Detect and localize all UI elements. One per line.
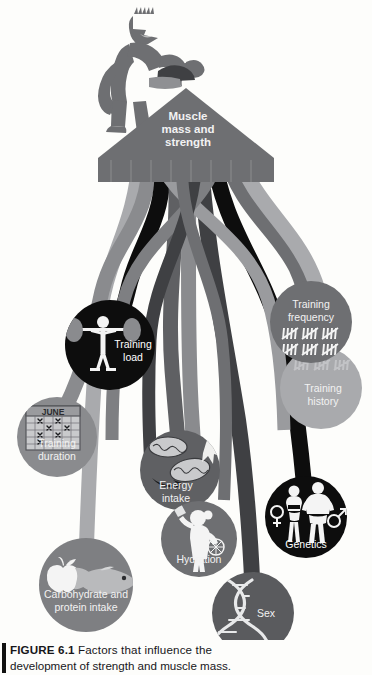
factor-label-genetics: Sex [257,607,276,619]
factor-label-carbohydrate-line2: protein intake [54,601,117,613]
factor-label-training-load-line1: Training [114,338,152,350]
factor-label-energy-intake-line1: Energy [159,479,193,491]
factor-label-training-frequency-line2: frequency [288,311,335,323]
arrow-label-line3: strength [165,136,211,148]
caption-line-1: Factors that influence the [78,643,212,656]
factor-label-training-load-line2: load [123,351,143,363]
figure-caption: FIGURE 6.1 Factors that influence the de… [0,642,372,673]
factor-label-energy-intake-line2: intake [162,492,190,504]
factor-label-training-duration-line2: duration [38,450,76,462]
factor-label-training-frequency-line1: Training [292,298,330,310]
factor-label-carbohydrate-line1: Carbohydrate and [44,588,128,600]
factor-label-training-duration-line1: Training [38,437,76,449]
figure-canvas: Muscle mass and strength Training histor… [0,0,372,675]
calendar-month-label: JUNE [42,407,65,417]
factor-training-frequency[interactable]: Training frequency [270,281,352,363]
factor-label-training-history-line2: history [308,395,340,407]
factor-label-sex: Genetics [285,538,326,550]
arrow-label-line1: Muscle [169,110,208,122]
factor-carbohydrate-and-protein-intake[interactable]: Carbohydrate and protein intake [39,538,136,632]
factor-energy-intake[interactable]: Energy intake [140,430,226,510]
figure-label-prefix: FIGURE [10,643,55,656]
factor-training-duration[interactable]: JUNE Training duration [17,397,97,477]
factors-diagram: Muscle mass and strength Training histor… [0,0,372,640]
factor-sex[interactable]: Genetics [265,476,347,558]
factor-label-training-history-line1: Training [304,382,342,394]
factor-hydration[interactable]: Hydration [161,501,237,577]
figure-number: 6.1 [58,643,75,656]
caption-accent-bar [2,643,6,673]
arrow-label-line2: mass and [161,123,214,135]
factor-genetics[interactable]: Sex [212,572,295,640]
factor-training-load[interactable]: Training load [65,300,155,390]
factor-label-hydration: Hydration [177,553,222,565]
caption-line-2: development of strength and muscle mass. [10,658,364,674]
